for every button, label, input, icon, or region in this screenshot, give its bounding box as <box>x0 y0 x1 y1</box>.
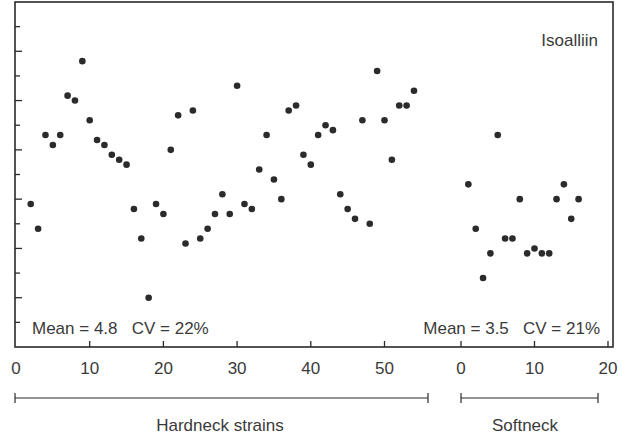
data-point <box>308 161 315 168</box>
data-point <box>138 235 145 242</box>
data-point <box>293 102 300 109</box>
x-tick-label: 50 <box>375 359 394 378</box>
data-point <box>72 97 79 104</box>
data-point <box>27 201 34 208</box>
data-point <box>502 235 509 242</box>
data-point <box>330 127 337 134</box>
data-point <box>389 156 396 163</box>
x-tick-label: 30 <box>228 359 247 378</box>
softneck-data-points <box>465 132 582 282</box>
data-point <box>568 216 575 223</box>
data-point <box>344 206 351 213</box>
data-point <box>50 142 57 149</box>
data-point <box>546 250 553 257</box>
data-point <box>575 196 582 203</box>
data-point <box>182 240 189 247</box>
data-point <box>374 68 381 75</box>
softneck-group-bracket <box>461 393 598 403</box>
data-point <box>131 206 138 213</box>
data-point <box>160 211 167 218</box>
data-point <box>315 132 322 139</box>
data-point <box>396 102 403 109</box>
data-point <box>531 245 538 252</box>
data-point <box>271 176 278 183</box>
x-tick-label: 0 <box>456 359 465 378</box>
data-point <box>480 275 487 282</box>
data-point <box>366 220 373 227</box>
data-point <box>487 250 494 257</box>
data-point <box>278 196 285 203</box>
scatter-chart: Isoalliin Mean = 4.8 CV = 22% Mean = 3.5… <box>0 0 622 439</box>
data-point <box>509 235 516 242</box>
data-point <box>212 211 219 218</box>
data-point <box>109 151 116 158</box>
plot-border <box>15 2 613 347</box>
plot-frame <box>15 2 613 347</box>
data-point <box>241 201 248 208</box>
data-point <box>517 196 524 203</box>
data-point <box>226 211 233 218</box>
data-point <box>204 225 211 232</box>
data-point <box>219 191 226 198</box>
data-point <box>256 166 263 173</box>
data-point <box>300 151 307 158</box>
data-point <box>153 201 160 208</box>
x-tick-label: 10 <box>525 359 544 378</box>
x-axis-ticks <box>90 341 608 347</box>
data-point <box>249 206 256 213</box>
data-point <box>524 250 531 257</box>
data-point <box>86 117 93 124</box>
data-point <box>79 58 86 65</box>
chart-title: Isoalliin <box>541 31 598 50</box>
hardneck-data-points <box>27 58 417 301</box>
x-tick-label: 0 <box>11 359 20 378</box>
data-point <box>352 216 359 223</box>
softneck-stats-annotation: Mean = 3.5 CV = 21% <box>423 319 600 338</box>
x-tick-labels: 0102030405001020 <box>11 359 617 378</box>
hardneck-group-label: Hardneck strains <box>156 416 284 435</box>
data-point <box>539 250 546 257</box>
data-point <box>175 112 182 119</box>
data-point <box>465 181 472 188</box>
data-point <box>285 107 292 114</box>
data-point <box>57 132 64 139</box>
x-tick-label: 20 <box>154 359 173 378</box>
data-point <box>403 102 410 109</box>
data-point <box>234 82 241 89</box>
softneck-group-label: Softneck <box>492 416 559 435</box>
data-point <box>190 107 197 114</box>
data-point <box>561 181 568 188</box>
x-tick-label: 20 <box>599 359 618 378</box>
hardneck-group-bracket <box>15 393 428 403</box>
data-point <box>359 117 366 124</box>
x-tick-label: 10 <box>80 359 99 378</box>
data-point <box>337 191 344 198</box>
data-point <box>42 132 49 139</box>
data-point <box>322 122 329 129</box>
data-point <box>64 92 71 99</box>
data-point <box>494 132 501 139</box>
y-axis-ticks <box>15 27 22 323</box>
data-point <box>381 117 388 124</box>
data-point <box>123 161 130 168</box>
data-point <box>145 294 152 301</box>
data-point <box>411 87 418 94</box>
data-point <box>116 156 123 163</box>
data-point <box>101 142 108 149</box>
data-point <box>472 225 479 232</box>
data-point <box>197 235 204 242</box>
data-point <box>553 196 560 203</box>
x-tick-label: 40 <box>301 359 320 378</box>
data-point <box>263 132 270 139</box>
data-point <box>94 137 101 144</box>
hardneck-stats-annotation: Mean = 4.8 CV = 22% <box>32 319 209 338</box>
data-point <box>35 225 42 232</box>
data-point <box>167 147 174 154</box>
